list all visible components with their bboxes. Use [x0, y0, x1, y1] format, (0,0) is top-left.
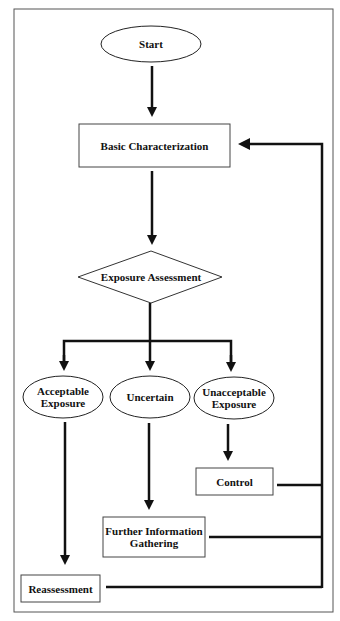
reassessment-node: Reassessment: [21, 575, 100, 602]
further-information-node: Further Information Gathering: [103, 517, 205, 557]
acceptable-label-line1: Acceptable: [37, 385, 89, 397]
acceptable-exposure-node: Acceptable Exposure: [23, 376, 103, 418]
start-label: Start: [139, 38, 163, 50]
control-node: Control: [196, 468, 273, 495]
reassessment-label: Reassessment: [28, 583, 92, 595]
further-label-line1: Further Information: [105, 525, 202, 537]
unacceptable-exposure-node: Unacceptable Exposure: [192, 377, 276, 419]
feedback-loop-line: [250, 144, 322, 588]
further-label-line2: Gathering: [130, 537, 178, 549]
start-node: Start: [101, 37, 201, 51]
uncertain-label: Uncertain: [126, 391, 173, 403]
exposure-assessment-node: Exposure Assessment: [90, 270, 212, 284]
branch-connector: [64, 341, 231, 365]
unacceptable-label-line1: Unacceptable: [202, 386, 266, 398]
uncertain-node: Uncertain: [110, 376, 190, 418]
control-label: Control: [216, 476, 252, 488]
basic-characterization-node: Basic Characterization: [79, 124, 230, 167]
unacceptable-label-line2: Exposure: [212, 398, 256, 410]
assessment-label: Exposure Assessment: [101, 271, 201, 283]
acceptable-label-line2: Exposure: [41, 397, 85, 409]
feedback-arrowhead: [238, 138, 250, 150]
basic-label: Basic Characterization: [101, 140, 209, 152]
